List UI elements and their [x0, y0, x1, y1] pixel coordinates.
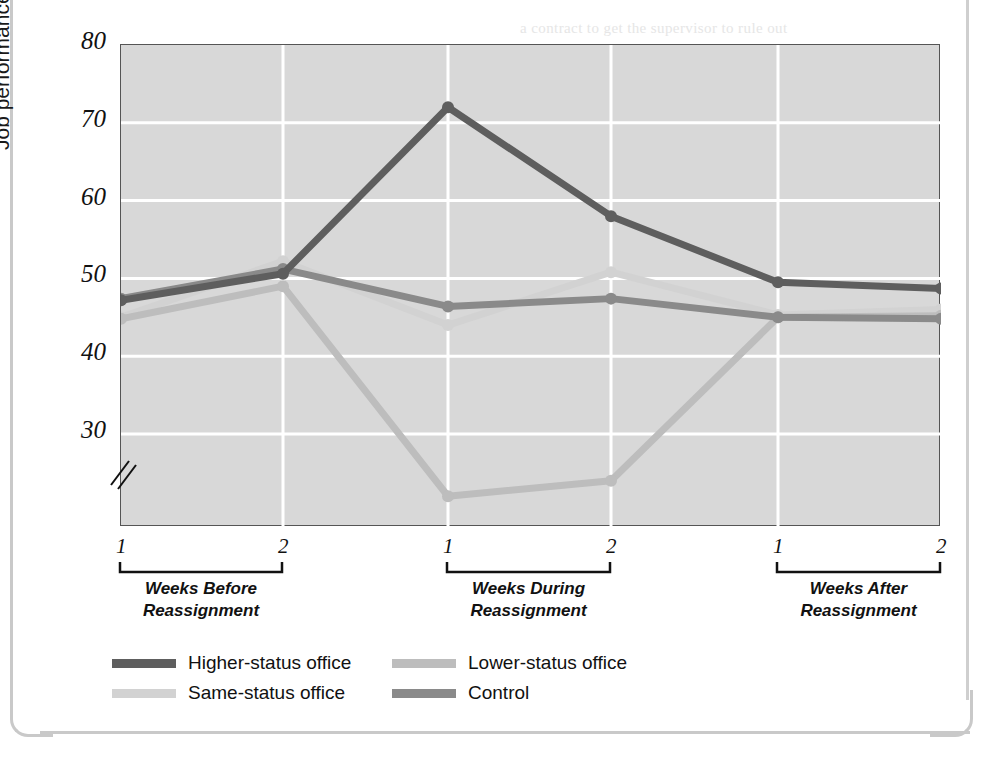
page-frame-bottom: [40, 731, 970, 734]
x-tick-label: 2: [278, 534, 289, 559]
x-group-label-line2: Reassignment: [447, 600, 610, 622]
y-axis-title: Job performance: [0, 0, 14, 150]
legend-label-same-status-office: Same-status office: [188, 682, 345, 704]
x-group-label-line1: Weeks During: [447, 578, 610, 600]
data-point: [277, 268, 289, 280]
x-group-label-line2: Reassignment: [777, 600, 940, 622]
data-point: [605, 210, 617, 222]
x-group-label-line2: Reassignment: [120, 600, 282, 622]
data-point: [772, 311, 784, 323]
y-tick-label: 60: [52, 183, 106, 211]
data-point: [935, 283, 941, 295]
legend-label-higher-status-office: Higher-status office: [188, 652, 351, 674]
legend-item-higher-status-office[interactable]: Higher-status office: [112, 652, 392, 674]
legend-row: Higher-status office Lower-status office: [112, 648, 672, 678]
x-group-label-line1: Weeks Before: [120, 578, 282, 600]
data-point: [605, 475, 617, 487]
data-point: [442, 300, 454, 312]
legend-item-control[interactable]: Control: [392, 682, 672, 704]
x-tick-label: 2: [606, 534, 617, 559]
plot-area: [120, 44, 940, 526]
bleed-text-line: a contract to get the supervisor to rule…: [520, 20, 788, 37]
x-tick-label: 1: [116, 534, 127, 559]
x-tick-label: 1: [773, 534, 784, 559]
legend-label-lower-status-office: Lower-status office: [468, 652, 627, 674]
legend-swatch-higher-status-office: [112, 659, 176, 668]
y-tick-label: 30: [52, 416, 106, 444]
legend-swatch-lower-status-office: [392, 659, 456, 668]
x-group-bracket: [118, 562, 284, 576]
x-group-label: Weeks BeforeReassignment: [120, 578, 282, 622]
x-tick-label: 2: [936, 534, 947, 559]
page-frame-right: [966, 0, 969, 700]
y-tick-label: 50: [52, 260, 106, 288]
x-group-label: Weeks AfterReassignment: [777, 578, 940, 622]
series-lower-status-office: [121, 280, 941, 502]
x-tick-label: 1: [443, 534, 454, 559]
legend-item-lower-status-office[interactable]: Lower-status office: [392, 652, 672, 674]
x-group-bracket: [445, 562, 612, 576]
axis-break-icon: [107, 455, 137, 495]
page-frame-top-left: [10, 0, 53, 25]
data-point: [605, 293, 617, 305]
data-point: [277, 280, 289, 292]
page-frame-bottom-left: [10, 690, 53, 737]
legend-item-same-status-office[interactable]: Same-status office: [112, 682, 392, 704]
figure-root: a contract to get the supervisor to rule…: [0, 0, 999, 760]
data-point: [772, 276, 784, 288]
data-point: [442, 490, 454, 502]
y-tick-label: 40: [52, 338, 106, 366]
x-group-label: Weeks DuringReassignment: [447, 578, 610, 622]
x-group-bracket: [775, 562, 942, 576]
chart-svg: [121, 45, 941, 527]
y-tick-label: 80: [52, 27, 106, 55]
chart-legend: Higher-status office Lower-status office…: [112, 648, 672, 708]
legend-row: Same-status office Control: [112, 678, 672, 708]
data-point: [442, 319, 454, 331]
data-point: [605, 266, 617, 278]
legend-swatch-control: [392, 689, 456, 698]
legend-label-control: Control: [468, 682, 529, 704]
legend-swatch-same-status-office: [112, 689, 176, 698]
data-point: [442, 101, 454, 113]
y-tick-label: 70: [52, 105, 106, 133]
x-group-label-line1: Weeks After: [777, 578, 940, 600]
